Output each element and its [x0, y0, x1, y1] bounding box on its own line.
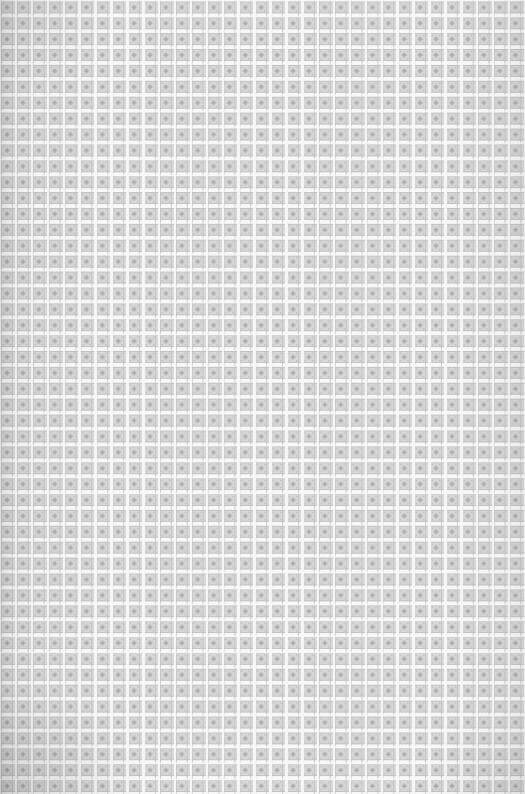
white-gutter-grid-layer	[0, 0, 525, 794]
ornament-shading-layer	[0, 0, 525, 794]
paper-grain-noise-layer	[0, 0, 525, 794]
edge-vignette-layer	[0, 0, 525, 794]
image-alt-text: A seamless light gray ornamental pattern…	[0, 0, 1, 1]
paper-ground-layer	[0, 0, 525, 794]
ornament-tile-grid-layer	[0, 0, 525, 794]
texture-image: A seamless light gray ornamental pattern…	[0, 0, 525, 794]
global-tone-layer	[0, 0, 525, 794]
